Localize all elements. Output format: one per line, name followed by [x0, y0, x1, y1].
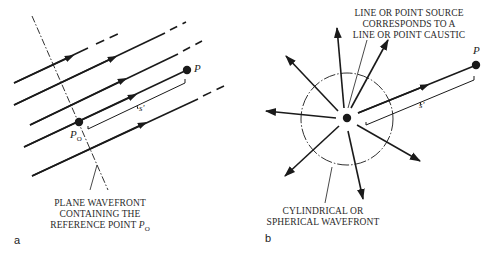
ray-down	[348, 131, 363, 199]
panel-label-b: b	[265, 232, 271, 244]
ray-down-right	[357, 125, 420, 161]
reference-point-P0	[75, 118, 83, 126]
label-P-b: P	[473, 44, 480, 56]
ray-up-left	[286, 56, 338, 111]
ray-up	[337, 28, 344, 108]
plane-wavefront-line	[32, 16, 108, 190]
caption-b-top-line-1: LINE OR POINT SOURCE	[350, 8, 468, 19]
label-s-prime-a: s'	[139, 103, 144, 113]
ray-1	[14, 33, 120, 83]
caption-a-line-2: CONTAINING THE	[44, 209, 156, 220]
caption-b-bottom-line-1: CYLINDRICAL OR	[266, 206, 380, 217]
caustic-source-point	[343, 114, 351, 122]
caption-a-line-1: PLANE WAVEFRONT	[44, 198, 156, 209]
label-s-prime-b: s'	[419, 100, 424, 110]
label-P0-base: P	[70, 128, 77, 140]
ray-down-left	[285, 126, 339, 176]
caption-a-line-3: REFERENCE POINT PO	[44, 220, 156, 235]
label-P0-sub: O	[77, 135, 82, 143]
caption-caustic: LINE OR POINT SOURCE CORRESPONDS TO A LI…	[350, 8, 468, 41]
label-P0: PO	[70, 128, 82, 143]
ray-through-reference-point	[24, 70, 187, 147]
ray-5	[32, 86, 224, 176]
caption-cylindrical-wavefront: CYLINDRICAL OR SPHERICAL WAVEFRONT	[266, 206, 380, 228]
observation-point-P-a	[183, 66, 191, 74]
caption-b-top-line-3: LINE OR POINT CAUSTIC	[350, 30, 468, 41]
ray-3	[30, 41, 202, 125]
caustic-pointer	[348, 40, 367, 108]
ray-2	[14, 22, 186, 105]
wavefront-pointer	[90, 165, 97, 190]
panel-label-a: a	[14, 234, 20, 246]
caption-b-bottom-line-2: SPHERICAL WAVEFRONT	[266, 217, 380, 228]
caption-b-top-line-2: CORRESPONDS TO A	[350, 19, 468, 30]
distance-bracket	[88, 79, 185, 129]
panel-b-diagram	[266, 28, 480, 203]
ray-up-right	[351, 40, 388, 108]
observation-point-P-b	[472, 61, 480, 69]
caption-plane-wavefront: PLANE WAVEFRONT CONTAINING THE REFERENCE…	[44, 198, 156, 235]
panel-a-diagram	[14, 16, 224, 190]
wavefront-pointer-b	[325, 167, 332, 203]
label-P-a: P	[194, 62, 201, 74]
